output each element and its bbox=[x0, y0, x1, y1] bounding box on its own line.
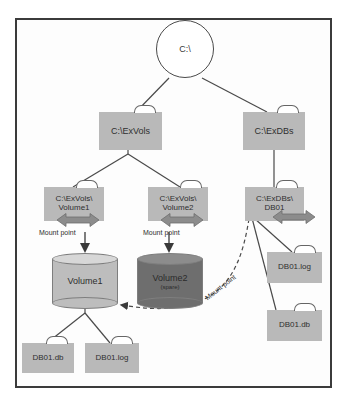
folder-left-db01-log[interactable]: DB01.log bbox=[85, 343, 139, 373]
folder-exvols-label: C:\ExVols bbox=[109, 126, 152, 136]
folder-tab-icon bbox=[46, 336, 68, 344]
volume1-name: Volume1 bbox=[67, 276, 102, 286]
down-arrow-icon-volume1 bbox=[78, 232, 92, 254]
folder-exvols-volume2-label: C:\ExVols\ Volume2 bbox=[158, 195, 199, 213]
folder-tab-icon bbox=[134, 105, 156, 113]
folder-exdbs-db01-label: C:\ExDBs\ DB01 bbox=[254, 195, 295, 213]
folder-right-db01-log[interactable]: DB01.log bbox=[267, 252, 322, 283]
root-circle-shape: C:\ bbox=[156, 20, 214, 78]
folder-exdbs-label: C:\ExDBs bbox=[252, 126, 295, 136]
folder-right-db01-db[interactable]: DB01.db bbox=[267, 310, 322, 341]
folder-tab-icon bbox=[276, 180, 298, 188]
volume2-sublabel: (spare) bbox=[160, 284, 179, 290]
folder-right-db01-log-label: DB01.log bbox=[276, 263, 313, 272]
folder-exvols[interactable]: C:\ExVols bbox=[99, 112, 162, 150]
root-label: C:\ bbox=[179, 44, 191, 54]
folder-tab-icon bbox=[180, 180, 202, 188]
folder-exdbs[interactable]: C:\ExDBs bbox=[243, 112, 305, 150]
folder-left-db01-db-label: DB01.db bbox=[30, 354, 65, 363]
diagram-canvas: C:\ C:\ExVols C:\ExDBs C:\ExVols\ Volume… bbox=[0, 0, 349, 404]
folder-tab-icon bbox=[277, 105, 299, 113]
mount-point-label-1: Mount point bbox=[39, 229, 76, 236]
double-arrow-icon-volume2 bbox=[160, 212, 204, 228]
folder-tab-icon bbox=[294, 303, 316, 311]
double-arrow-icon-volume1 bbox=[56, 212, 100, 228]
folder-left-db01-db[interactable]: DB01.db bbox=[22, 343, 74, 373]
node-root[interactable]: C:\ bbox=[156, 20, 214, 78]
folder-tab-icon bbox=[76, 180, 98, 188]
cylinder-text-group: Volume2 (spare) bbox=[137, 253, 203, 309]
volume-cylinder-volume2[interactable]: Volume2 (spare) bbox=[137, 253, 203, 309]
folder-left-db01-log-label: DB01.log bbox=[94, 354, 131, 363]
folder-tab-icon bbox=[111, 336, 133, 344]
folder-exvols-volume1-label: C:\ExVols\ Volume1 bbox=[54, 195, 95, 213]
folder-tab-icon bbox=[294, 245, 316, 253]
volume2-name: Volume2 bbox=[152, 273, 187, 283]
down-arrow-icon-volume2 bbox=[162, 232, 176, 254]
volume-cylinder-volume1[interactable]: Volume1 bbox=[52, 253, 118, 309]
cylinder-text-group: Volume1 bbox=[52, 253, 118, 309]
folder-right-db01-db-label: DB01.db bbox=[277, 321, 312, 330]
